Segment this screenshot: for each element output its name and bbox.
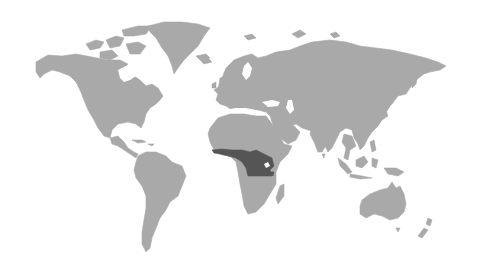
world-map: [0, 0, 480, 272]
world-map-svg: [0, 0, 480, 272]
